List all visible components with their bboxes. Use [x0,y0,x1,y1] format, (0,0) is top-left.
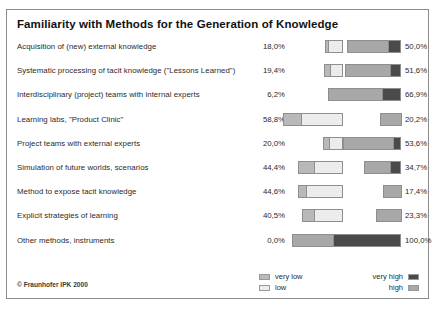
bar-segment-low [306,185,343,198]
chart-row: Simulation of future worlds, scenarios44… [7,158,428,182]
row-category-label: Simulation of future worlds, scenarios [17,163,148,172]
chart-row: Learning labs, "Product Clinic"58,8%20,2… [7,110,428,134]
legend-label: very low [275,272,303,281]
bar-group-low [298,161,344,174]
bar-segment-very-high [390,161,401,174]
row-left-value: 44,4% [207,163,285,172]
legend-group-high: very highhigh [337,272,419,294]
bar-segment-low [314,161,343,174]
bar-group-low [302,209,344,222]
row-category-label: Other methods, instruments [17,236,115,245]
bar-group-high [383,185,402,198]
chart-row: Other methods, instruments0,0%100,0% [7,231,428,255]
legend-item: low [259,283,303,292]
page-title: Familiarity with Methods for the Generat… [17,18,417,30]
copyright-notice: © Fraunhofer IPK 2000 [17,281,88,288]
row-left-value: 58,8% [207,115,285,124]
bar-group-low [324,64,344,77]
legend-swatch-icon [408,274,419,280]
bar-segment-high [347,40,389,53]
chart-row: Acquisition of (new) external knowledge1… [7,37,428,61]
bar-segment-very-low [283,113,301,126]
bar-segment-high [376,209,402,222]
bar-segment-very-high [382,88,401,101]
bar-segment-high [380,113,402,126]
bar-group-high [343,137,402,150]
row-category-label: Learning labs, "Product Clinic" [17,115,123,124]
row-category-label: Acquisition of (new) external knowledge [17,42,156,51]
bar-group-high [292,234,402,247]
bar-segment-low [330,64,343,77]
legend-label: low [275,283,286,292]
legend-swatch-icon [408,285,419,291]
row-category-label: Explicit strategies of learning [17,211,118,220]
bar-group-high [380,113,402,126]
bar-group-high [347,40,402,53]
bar-segment-very-high [390,64,401,77]
row-left-value: 20,0% [207,139,285,148]
legend-item: high [337,283,419,292]
row-left-value: 6,2% [207,90,285,99]
legend-swatch-icon [259,285,270,291]
legend-group-low: very lowlow [259,272,303,294]
bar-segment-high [364,161,392,174]
row-right-value: 100,0% [405,236,436,245]
bar-segment-very-high [393,137,401,150]
bar-segment-high [345,64,391,77]
bar-segment-high [328,88,383,101]
chart-plot-area: Acquisition of (new) external knowledge1… [7,37,428,265]
row-right-value: 34,7% [405,163,436,172]
chart-row: Systematic processing of tacit knowledge… [7,61,428,85]
bar-group-high [376,209,402,222]
bar-segment-very-high [333,234,401,247]
legend-item: very high [337,272,419,281]
bar-segment-low [328,40,343,53]
bar-segment-low [301,113,343,126]
bar-segment-low [329,137,343,150]
chart-row: Explicit strategies of learning40,5%23,3… [7,206,428,230]
row-left-value: 40,5% [207,211,285,220]
row-category-label: Method to expose tacit knowledge [17,187,137,196]
chart-figure: Familiarity with Methods for the Generat… [6,9,429,299]
bar-group-high [328,88,402,101]
bar-group-high [345,64,402,77]
bar-segment-high [343,137,394,150]
bar-group-low [325,40,344,53]
row-category-label: Project teams with external experts [17,139,140,148]
legend-swatch-icon [259,274,270,280]
bar-group-low [283,113,344,126]
chart-row: Project teams with external experts20,0%… [7,134,428,158]
row-left-value: 18,0% [207,42,285,51]
bar-segment-high [292,234,334,247]
legend-item: very low [259,272,303,281]
bar-group-low [298,185,344,198]
row-right-value: 20,2% [405,115,436,124]
row-left-value: 19,4% [207,66,285,75]
row-right-value: 23,3% [405,211,436,220]
row-category-label: Interdisciplinary (project) teams with i… [17,90,200,99]
chart-row: Interdisciplinary (project) teams with i… [7,85,428,109]
bar-group-low [323,137,344,150]
bar-segment-very-high [388,40,401,53]
bar-group-high [364,161,402,174]
row-left-value: 0,0% [207,236,285,245]
row-right-value: 50,0% [405,42,436,51]
bar-segment-low [314,209,343,222]
row-right-value: 53,6% [405,139,436,148]
row-left-value: 44,6% [207,187,285,196]
row-right-value: 51,6% [405,66,436,75]
bar-segment-high [383,185,402,198]
chart-row: Method to expose tacit knowledge44,6%17,… [7,182,428,206]
row-right-value: 66,9% [405,90,436,99]
bar-segment-very-low [298,161,315,174]
legend-label: high [389,283,403,292]
row-right-value: 17,4% [405,187,436,196]
row-category-label: Systematic processing of tacit knowledge… [17,66,235,75]
legend-label: very high [373,272,403,281]
